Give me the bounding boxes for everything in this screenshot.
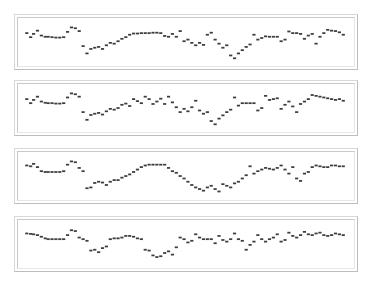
chart-panel-4-inner — [17, 219, 355, 269]
scatter-markers-3 — [18, 152, 354, 200]
chart-panel-3[interactable] — [14, 148, 358, 204]
scatter-plot-1[interactable] — [18, 18, 354, 66]
panel-stack — [0, 0, 370, 287]
chart-panel-1-inner — [17, 17, 355, 67]
chart-panel-1[interactable] — [14, 14, 358, 70]
scatter-markers-1 — [18, 18, 354, 66]
scatter-markers-4 — [18, 220, 354, 268]
scatter-plot-2[interactable] — [18, 84, 354, 132]
chart-panel-2[interactable] — [14, 80, 358, 136]
chart-panel-2-inner — [17, 83, 355, 133]
figure-root — [0, 0, 370, 287]
scatter-markers-2 — [18, 84, 354, 132]
scatter-plot-3[interactable] — [18, 152, 354, 200]
chart-panel-3-inner — [17, 151, 355, 201]
chart-panel-4[interactable] — [14, 216, 358, 272]
scatter-plot-4[interactable] — [18, 220, 354, 268]
